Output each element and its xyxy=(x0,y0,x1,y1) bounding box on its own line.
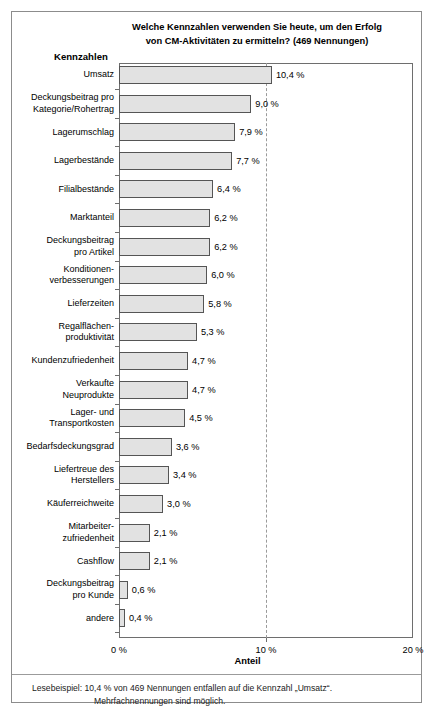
category-tick xyxy=(115,175,119,176)
category-tick xyxy=(115,404,119,405)
bar-value-label: 2,1 % xyxy=(154,524,178,542)
bar-row: 6,4 % xyxy=(119,180,413,198)
category-label: Umsatz xyxy=(0,69,114,80)
bar-row: 5,8 % xyxy=(119,295,413,313)
bar-value-label: 4,7 % xyxy=(192,381,216,399)
category-tick xyxy=(115,346,119,347)
category-tick xyxy=(115,375,119,376)
bar-value-label: 10,4 % xyxy=(276,66,305,84)
bar[interactable] xyxy=(119,552,150,570)
x-tick-label: 0 % xyxy=(111,645,127,655)
category-label: Konditionen- verbesserungen xyxy=(0,264,114,287)
bar[interactable] xyxy=(119,180,213,198)
bar[interactable] xyxy=(119,409,185,427)
bar-value-label: 0,6 % xyxy=(132,581,156,599)
bar-value-label: 6,4 % xyxy=(217,180,241,198)
bar[interactable] xyxy=(119,238,210,256)
bar[interactable] xyxy=(119,152,232,170)
bar-row: 7,7 % xyxy=(119,152,413,170)
footnote-line-1: Lesebeispiel: 10,4 % von 469 Nennungen e… xyxy=(32,682,407,695)
category-tick xyxy=(115,575,119,576)
category-tick xyxy=(115,604,119,605)
category-label: Deckungsbeitrag pro Kategorie/Rohertrag xyxy=(0,92,114,115)
bar-value-label: 3,4 % xyxy=(173,466,197,484)
bar[interactable] xyxy=(119,495,163,513)
bar-value-label: 0,4 % xyxy=(129,609,153,627)
bar[interactable] xyxy=(119,438,172,456)
bar-row: 6,0 % xyxy=(119,266,413,284)
bar-value-label: 6,2 % xyxy=(214,209,238,227)
bar[interactable] xyxy=(119,581,128,599)
category-label: Kundenzufriedenheit xyxy=(0,355,114,366)
bar-value-label: 6,2 % xyxy=(214,238,238,256)
x-axis-title: Anteil xyxy=(12,655,423,666)
bar[interactable] xyxy=(119,609,125,627)
category-label: Lieferzeiten xyxy=(0,298,114,309)
category-label: Verkaufte Neuprodukte xyxy=(0,378,114,401)
category-label: Filialbestände xyxy=(0,184,114,195)
category-label: Deckungsbeitrag pro Kunde xyxy=(0,578,114,601)
category-label: Liefertreue des Herstellers xyxy=(0,464,114,487)
x-tick-label: 20 % xyxy=(403,645,424,655)
bar-value-label: 7,7 % xyxy=(236,152,260,170)
bar-row: 3,6 % xyxy=(119,438,413,456)
bar-value-label: 3,0 % xyxy=(167,495,191,513)
footnote-line-2: Mehrfachnennungen sind möglich. xyxy=(32,695,407,708)
category-label: Mitarbeiter- zufriedenheit xyxy=(0,521,114,544)
bar[interactable] xyxy=(119,123,235,141)
x-axis-title-text: Anteil xyxy=(234,655,260,666)
category-tick xyxy=(115,203,119,204)
bar[interactable] xyxy=(119,524,150,542)
bar-value-label: 6,0 % xyxy=(211,266,235,284)
footnote: Lesebeispiel: 10,4 % von 469 Nennungen e… xyxy=(32,682,407,708)
bar-row: 2,1 % xyxy=(119,524,413,542)
bar-row: 10,4 % xyxy=(119,66,413,84)
bar-row: 4,7 % xyxy=(119,352,413,370)
category-label: andere xyxy=(0,613,114,624)
bar[interactable] xyxy=(119,323,197,341)
bar-value-label: 3,6 % xyxy=(176,438,200,456)
bar-value-label: 4,5 % xyxy=(189,409,213,427)
bar-value-label: 4,7 % xyxy=(192,352,216,370)
category-tick xyxy=(115,232,119,233)
category-label: Deckungsbeitrag pro Artikel xyxy=(0,235,114,258)
category-label: Regalflächen- produktivität xyxy=(0,321,114,344)
category-tick xyxy=(115,146,119,147)
bar[interactable] xyxy=(119,466,169,484)
category-tick xyxy=(115,518,119,519)
bar-value-label: 7,9 % xyxy=(239,123,263,141)
x-tick-mark xyxy=(266,638,267,642)
bar-row: 6,2 % xyxy=(119,209,413,227)
category-tick xyxy=(115,118,119,119)
bar-row: 7,9 % xyxy=(119,123,413,141)
bar-row: 2,1 % xyxy=(119,552,413,570)
bar-row: 9,0 % xyxy=(119,95,413,113)
category-label: Käuferreichweite xyxy=(0,498,114,509)
bar[interactable] xyxy=(119,95,251,113)
bar[interactable] xyxy=(119,209,210,227)
bar-row: 4,7 % xyxy=(119,381,413,399)
chart-title-line-2: von CM-Aktivitäten zu ermitteln? (469 Ne… xyxy=(107,35,407,49)
bar[interactable] xyxy=(119,266,207,284)
category-label: Lagerumschlag xyxy=(0,127,114,138)
category-label: Cashflow xyxy=(0,556,114,567)
bar-value-label: 5,3 % xyxy=(201,323,225,341)
bar[interactable] xyxy=(119,381,188,399)
bar-row: 0,6 % xyxy=(119,581,413,599)
category-tick xyxy=(115,261,119,262)
category-tick xyxy=(115,432,119,433)
x-tick-label: 10 % xyxy=(256,645,277,655)
bar-row: 5,3 % xyxy=(119,323,413,341)
bar-value-label: 5,8 % xyxy=(208,295,232,313)
bar-value-label: 2,1 % xyxy=(154,552,178,570)
bar-row: 3,0 % xyxy=(119,495,413,513)
bar[interactable] xyxy=(119,295,204,313)
category-tick xyxy=(115,547,119,548)
bar[interactable] xyxy=(119,66,272,84)
category-tick xyxy=(115,89,119,90)
figure-panel: Welche Kennzahlen verwenden Sie heute, u… xyxy=(11,11,422,703)
bar[interactable] xyxy=(119,352,188,370)
bar-row: 3,4 % xyxy=(119,466,413,484)
bar-row: 4,5 % xyxy=(119,409,413,427)
category-tick xyxy=(115,489,119,490)
